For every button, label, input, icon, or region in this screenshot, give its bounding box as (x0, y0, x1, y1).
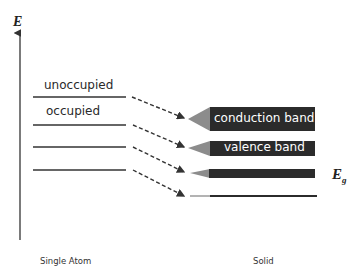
single-atom-caption: Single Atom (40, 256, 91, 266)
energy-axis-label: E (13, 14, 22, 30)
energy-diagram-graphics (0, 0, 361, 280)
band-gap-label: Eg (332, 166, 347, 185)
conduction-band-label: conduction band (214, 111, 314, 125)
arrow-4 (133, 170, 184, 196)
occupied-label: occupied (46, 104, 100, 118)
band-gap-symbol: E (332, 166, 342, 182)
valence-band-label: valence band (224, 140, 305, 154)
unoccupied-label: unoccupied (44, 78, 113, 92)
arrow-3 (133, 147, 184, 172)
solid-caption: Solid (253, 256, 274, 266)
arrow-1 (132, 97, 184, 118)
band-gap-subscript: g (342, 175, 347, 185)
arrow-2 (133, 125, 184, 147)
dashed-arrows (132, 97, 184, 196)
band-3-shape (190, 169, 315, 178)
